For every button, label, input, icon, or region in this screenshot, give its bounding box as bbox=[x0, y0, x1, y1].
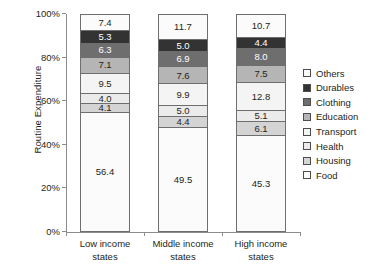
bar-segment-value: 5.1 bbox=[254, 111, 267, 121]
x-axis-labels: Low incomestatesMiddle incomestatesHigh … bbox=[66, 238, 300, 272]
bar-segment-value: 4.1 bbox=[98, 104, 111, 113]
legend-swatch-icon bbox=[303, 157, 311, 165]
legend-item-label: Transport bbox=[316, 127, 356, 137]
plot-area: 7.45.36.37.19.54.04.156.411.75.06.97.69.… bbox=[66, 14, 300, 232]
y-axis: 0%20%40%60%80%100% bbox=[18, 14, 66, 232]
bar-segment-value: 5.0 bbox=[176, 106, 189, 116]
bar-group: 7.45.36.37.19.54.04.156.4 bbox=[66, 14, 144, 232]
bar-segment[interactable]: 11.7 bbox=[159, 15, 207, 40]
x-axis-category-label-line: states bbox=[66, 251, 144, 264]
bar-segment[interactable]: 6.1 bbox=[237, 122, 285, 136]
bar-segment-value: 7.5 bbox=[254, 69, 267, 79]
bar-segment-value: 4.4 bbox=[176, 117, 189, 126]
y-axis-tick-label: 0% bbox=[18, 226, 66, 238]
legend-swatch-icon bbox=[303, 69, 311, 77]
bar-segment-value: 6.3 bbox=[98, 45, 111, 55]
bar-segment[interactable]: 9.9 bbox=[159, 84, 207, 106]
bar-segment[interactable]: 6.3 bbox=[81, 44, 129, 58]
bar-group: 11.75.06.97.69.95.04.449.5 bbox=[144, 14, 222, 232]
x-axis-category-label: Middle incomestates bbox=[144, 238, 222, 263]
bar-segment-value: 8.0 bbox=[254, 52, 267, 62]
legend-item-label: Others bbox=[316, 69, 345, 79]
x-axis-category-label-line: states bbox=[144, 251, 222, 264]
stacked-bar[interactable]: 11.75.06.97.69.95.04.449.5 bbox=[158, 14, 208, 232]
legend-item-label: Durables bbox=[316, 83, 354, 93]
bar-segment[interactable]: 5.0 bbox=[159, 106, 207, 117]
legend-swatch-icon bbox=[303, 171, 311, 179]
x-axis-category-label: High incomestates bbox=[222, 238, 300, 263]
bar-segment[interactable]: 10.7 bbox=[237, 15, 285, 38]
legend-item-label: Education bbox=[316, 112, 358, 122]
bar-segment[interactable]: 5.1 bbox=[237, 111, 285, 123]
bar-group: 10.74.48.07.512.85.16.145.3 bbox=[222, 14, 300, 232]
x-axis-tick-mark bbox=[144, 232, 145, 236]
x-axis-tick-mark bbox=[300, 232, 301, 236]
bar-segment-value: 6.1 bbox=[254, 124, 267, 134]
bar-segment[interactable]: 9.5 bbox=[81, 74, 129, 95]
legend-item-label: Health bbox=[316, 142, 343, 152]
legend-swatch-icon bbox=[303, 113, 311, 121]
bar-segment-value: 5.0 bbox=[176, 41, 189, 51]
y-axis-tick-label: 60% bbox=[18, 95, 66, 107]
x-axis-category-label-line: High income bbox=[222, 238, 300, 251]
legend-item[interactable]: Health bbox=[303, 139, 379, 154]
legend-item-label: Clothing bbox=[316, 98, 351, 108]
bar-segment[interactable]: 4.4 bbox=[237, 38, 285, 48]
x-axis-category-label-line: Middle income bbox=[144, 238, 222, 251]
legend-item[interactable]: Clothing bbox=[303, 95, 379, 110]
bar-segment[interactable]: 7.5 bbox=[237, 66, 285, 83]
bar-segment[interactable]: 8.0 bbox=[237, 49, 285, 67]
bar-segment[interactable]: 4.4 bbox=[159, 117, 207, 127]
bar-segment[interactable]: 56.4 bbox=[81, 113, 129, 231]
bar-segment-value: 4.4 bbox=[254, 38, 267, 47]
bar-segment[interactable]: 49.5 bbox=[159, 128, 207, 231]
stacked-bar[interactable]: 10.74.48.07.512.85.16.145.3 bbox=[236, 14, 286, 232]
bar-segment[interactable]: 7.6 bbox=[159, 67, 207, 84]
bar-segment[interactable]: 6.9 bbox=[159, 52, 207, 67]
bar-segment-value: 9.5 bbox=[98, 79, 111, 89]
bar-segment[interactable]: 7.1 bbox=[81, 58, 129, 74]
bar-segment-value: 5.3 bbox=[98, 32, 111, 42]
x-axis-category-label-line: states bbox=[222, 251, 300, 264]
bar-segment[interactable]: 45.3 bbox=[237, 136, 285, 231]
legend-item[interactable]: Housing bbox=[303, 154, 379, 169]
x-axis-category-label-line: Low income bbox=[66, 238, 144, 251]
legend-item-label: Housing bbox=[316, 156, 351, 166]
bar-segment-value: 56.4 bbox=[96, 167, 115, 177]
bar-segment[interactable]: 4.1 bbox=[81, 104, 129, 114]
bar-segment-value: 9.9 bbox=[176, 90, 189, 100]
bar-segment-value: 10.7 bbox=[252, 21, 271, 31]
x-axis-line bbox=[66, 232, 300, 233]
x-axis-tick-mark bbox=[222, 232, 223, 236]
legend-item[interactable]: Education bbox=[303, 110, 379, 125]
legend-item[interactable]: Transport bbox=[303, 124, 379, 139]
bar-segment-value: 49.5 bbox=[174, 175, 193, 185]
y-axis-tick-label: 100% bbox=[18, 8, 66, 20]
legend-swatch-icon bbox=[303, 84, 311, 92]
legend-item-label: Food bbox=[316, 171, 338, 181]
bar-segment-value: 45.3 bbox=[252, 179, 271, 189]
legend-item[interactable]: Durables bbox=[303, 81, 379, 96]
legend-swatch-icon bbox=[303, 128, 311, 136]
legend-item[interactable]: Food bbox=[303, 168, 379, 183]
x-axis-tick-mark bbox=[66, 232, 67, 236]
y-axis-tick-label: 80% bbox=[18, 52, 66, 64]
bar-segment-value: 6.9 bbox=[176, 54, 189, 64]
bar-segment-value: 7.4 bbox=[98, 18, 111, 28]
legend-swatch-icon bbox=[303, 98, 311, 106]
bar-segment[interactable]: 5.3 bbox=[81, 31, 129, 43]
bar-segment-value: 12.8 bbox=[252, 92, 271, 102]
bar-segment[interactable]: 5.0 bbox=[159, 40, 207, 51]
legend-item[interactable]: Others bbox=[303, 66, 379, 81]
bar-segment[interactable]: 7.4 bbox=[81, 15, 129, 31]
x-axis-category-label: Low incomestates bbox=[66, 238, 144, 263]
bar-segment[interactable]: 12.8 bbox=[237, 83, 285, 111]
y-axis-tick-label: 40% bbox=[18, 139, 66, 151]
stacked-bar-chart: Routine Expenditure 0%20%40%60%80%100% 7… bbox=[0, 0, 379, 275]
stacked-bar[interactable]: 7.45.36.37.19.54.04.156.4 bbox=[80, 14, 130, 232]
legend-swatch-icon bbox=[303, 142, 311, 150]
bar-segment[interactable]: 4.0 bbox=[81, 94, 129, 103]
bar-segment-value: 7.6 bbox=[176, 71, 189, 81]
chart-legend: OthersDurablesClothingEducationTransport… bbox=[303, 66, 379, 183]
y-axis-tick-label: 20% bbox=[18, 182, 66, 194]
